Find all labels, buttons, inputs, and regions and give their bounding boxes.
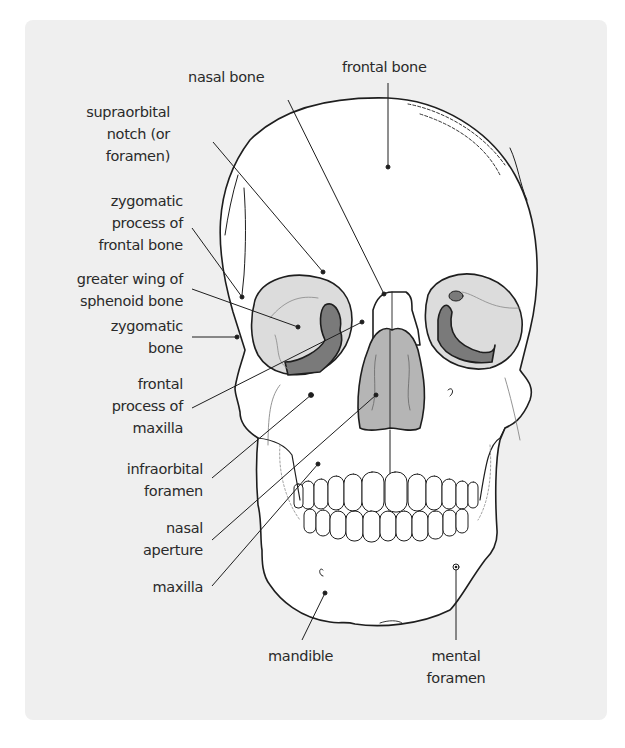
label-nasal-bone: nasal bone	[188, 66, 264, 88]
label-zygomatic-process: zygomatic process of frontal bone	[98, 190, 183, 256]
label-nasal-aperture: nasal aperture	[143, 517, 203, 561]
label-infraorbital-foramen: infraorbital foramen	[127, 458, 203, 502]
label-zygomatic-bone: zygomatic bone	[111, 315, 183, 359]
label-mental-foramen: mental foramen	[418, 645, 494, 689]
label-maxilla: maxilla	[153, 576, 203, 598]
label-greater-wing: greater wing of sphenoid bone	[77, 268, 183, 312]
label-supraorbital-notch: supraorbital notch (or foramen)	[86, 101, 170, 167]
label-mandible: mandible	[268, 645, 333, 667]
label-frontal-bone: frontal bone	[342, 56, 427, 78]
label-frontal-process: frontal process of maxilla	[112, 373, 183, 439]
